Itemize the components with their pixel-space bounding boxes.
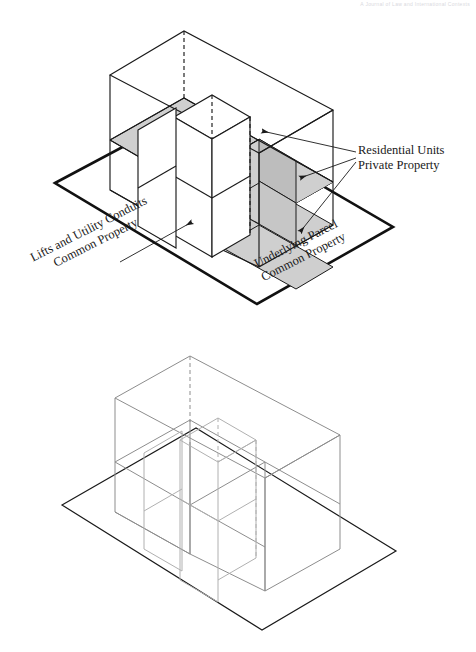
page-root: A Journal of Law and International Conte… (0, 0, 476, 652)
core-secondary-shaft (138, 108, 176, 248)
figure-bottom (0, 340, 476, 652)
label-residential-line-2: Private Property (358, 158, 444, 173)
label-residential-line-1: Residential Units (358, 143, 444, 158)
lift-utility-core (174, 95, 250, 257)
label-residential: Residential Units Private Property (358, 143, 444, 172)
